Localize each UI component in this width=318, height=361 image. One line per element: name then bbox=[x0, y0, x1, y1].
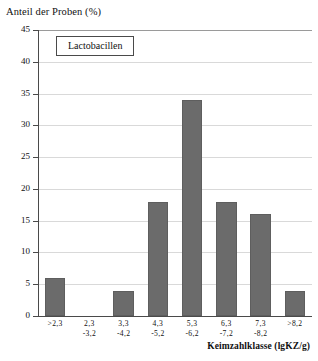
x-tick-label-line1: 6,3 bbox=[221, 319, 232, 328]
x-tick-label-line1: 2,3 bbox=[84, 319, 95, 328]
y-tick-30 bbox=[33, 125, 38, 126]
bar bbox=[250, 214, 271, 316]
y-tick-35 bbox=[33, 94, 38, 95]
y-tick-20 bbox=[33, 189, 38, 190]
y-tick-label: 25 bbox=[0, 152, 30, 161]
legend-label-lactobacillen: Lactobacillen bbox=[68, 40, 122, 51]
y-tick-0 bbox=[33, 316, 38, 317]
x-tick-label-line1: >2,3 bbox=[48, 319, 63, 328]
x-tick-label: 5,3-6,2 bbox=[175, 319, 209, 338]
bars-layer bbox=[38, 30, 312, 316]
x-tick-label: >2,3 bbox=[38, 319, 72, 329]
y-axis-title: Anteil der Proben (%) bbox=[6, 6, 101, 17]
y-tick-10 bbox=[33, 252, 38, 253]
x-tick-label-line2: -5,2 bbox=[141, 329, 175, 339]
y-tick-label: 15 bbox=[0, 216, 30, 225]
x-tick-label-line1: 5,3 bbox=[187, 319, 198, 328]
x-tick-label: 6,3-7,2 bbox=[209, 319, 243, 338]
x-tick-label: 7,3-8,2 bbox=[244, 319, 278, 338]
x-axis-title: Keimzahlklasse (lgKZ/g) bbox=[207, 341, 310, 351]
y-tick-label: 0 bbox=[0, 311, 30, 320]
bar bbox=[182, 100, 203, 316]
x-tick-label: 2,3-3,2 bbox=[72, 319, 106, 338]
y-tick-label: 45 bbox=[0, 25, 30, 34]
bar bbox=[285, 291, 306, 316]
y-tick-40 bbox=[33, 62, 38, 63]
y-tick-label: 5 bbox=[0, 279, 30, 288]
x-tick-label-line2: -8,2 bbox=[244, 329, 278, 339]
x-tick-label-line1: >8,2 bbox=[287, 319, 302, 328]
y-tick-25 bbox=[33, 157, 38, 158]
y-tick-label: 20 bbox=[0, 184, 30, 193]
x-axis-line bbox=[38, 316, 312, 317]
x-tick-label: 3,3-4,2 bbox=[107, 319, 141, 338]
bar bbox=[45, 278, 66, 316]
x-tick-label: 4,3-5,2 bbox=[141, 319, 175, 338]
x-tick-label: >8,2 bbox=[278, 319, 312, 329]
bar bbox=[113, 291, 134, 316]
x-tick-label-line2: -6,2 bbox=[175, 329, 209, 339]
bar bbox=[148, 202, 169, 316]
y-tick-label: 30 bbox=[0, 120, 30, 129]
y-tick-label: 40 bbox=[0, 57, 30, 66]
x-tick-label-line1: 3,3 bbox=[118, 319, 129, 328]
y-tick-5 bbox=[33, 284, 38, 285]
bar-chart: Anteil der Proben (%) >2,32,3-3,23,3-4,2… bbox=[0, 0, 318, 361]
y-tick-label: 35 bbox=[0, 89, 30, 98]
y-tick-label: 10 bbox=[0, 247, 30, 256]
bar bbox=[216, 202, 237, 316]
x-tick-label-line1: 4,3 bbox=[153, 319, 164, 328]
legend: Lactobacillen bbox=[56, 36, 134, 56]
y-tick-45 bbox=[33, 30, 38, 31]
y-tick-15 bbox=[33, 221, 38, 222]
x-tick-label-line2: -4,2 bbox=[107, 329, 141, 339]
x-tick-label-line2: -7,2 bbox=[209, 329, 243, 339]
x-tick-label-line1: 7,3 bbox=[255, 319, 266, 328]
x-tick-label-line2: -3,2 bbox=[72, 329, 106, 339]
